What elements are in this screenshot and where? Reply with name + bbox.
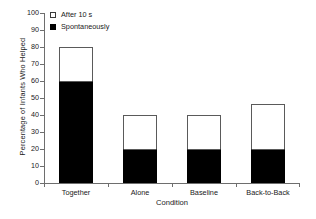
y-tick-mark [40, 81, 44, 82]
y-tick-mark [40, 13, 44, 14]
y-tick-label: 60 [31, 77, 39, 84]
x-tick-mark [108, 183, 109, 187]
y-tick-mark [40, 30, 44, 31]
legend-item-spontaneously: Spontaneously [50, 21, 109, 32]
bar-segment-after-10s [123, 115, 157, 149]
legend-label-spontaneously: Spontaneously [61, 23, 109, 30]
legend-label-after-10s: After 10 s [61, 11, 92, 18]
x-tick-mark [299, 183, 300, 187]
y-tick-label: 10 [31, 162, 39, 169]
y-tick-label: 50 [31, 94, 39, 101]
y-tick-label: 70 [31, 60, 39, 67]
y-tick-mark [40, 149, 44, 150]
y-tick-label: 0 [35, 179, 39, 186]
bar-segment-spontaneously [123, 149, 157, 183]
plot-area: 0102030405060708090100 TogetherAloneBase… [44, 13, 300, 183]
y-tick-mark [40, 98, 44, 99]
bar-segment-spontaneously [59, 81, 93, 183]
bar-back-to-back [251, 104, 285, 183]
x-tick-label: Together [62, 189, 90, 196]
x-tick-label: Alone [131, 189, 150, 196]
bar-baseline [187, 115, 221, 183]
y-axis-title: Percentage of Infants Who Helped [18, 9, 27, 185]
x-tick-mark [44, 183, 45, 187]
x-tick-label: Baseline [190, 189, 218, 196]
y-tick-mark [40, 64, 44, 65]
legend-item-after-10s: After 10 s [50, 9, 109, 20]
y-tick-label: 40 [31, 111, 39, 118]
y-tick-mark [40, 115, 44, 116]
x-tick-label: Back-to-Back [246, 189, 289, 196]
bar-segment-after-10s [187, 115, 221, 149]
y-axis-line [44, 13, 45, 183]
bar-segment-spontaneously [251, 149, 285, 183]
legend-swatch-filled-icon [50, 24, 56, 30]
y-tick-mark [40, 132, 44, 133]
y-tick-mark [40, 47, 44, 48]
x-tick-mark [172, 183, 173, 187]
chart-figure: Percentage of Infants Who Helped 0102030… [0, 0, 316, 219]
y-tick-label: 90 [31, 26, 39, 33]
x-tick-mark [236, 183, 237, 187]
legend-swatch-hollow-icon [50, 12, 56, 18]
bar-segment-after-10s [251, 104, 285, 149]
bar-alone [123, 115, 157, 183]
y-tick-mark [40, 166, 44, 167]
y-tick-label: 20 [31, 145, 39, 152]
chart-legend: After 10 s Spontaneously [50, 9, 109, 33]
x-axis-title: Condition [44, 198, 300, 207]
y-tick-label: 100 [27, 9, 39, 16]
y-tick-label: 80 [31, 43, 39, 50]
bar-segment-after-10s [59, 47, 93, 81]
y-tick-label: 30 [31, 128, 39, 135]
bar-segment-spontaneously [187, 149, 221, 183]
bar-together [59, 47, 93, 183]
